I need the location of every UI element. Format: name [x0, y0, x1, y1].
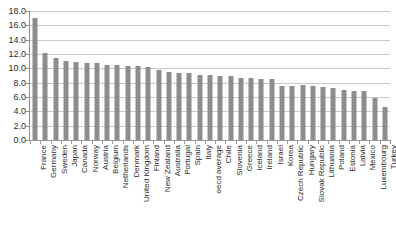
bar[interactable] — [33, 18, 38, 140]
x-axis-category-label: Greece — [244, 119, 252, 145]
x-axis-category-label: Italy — [203, 130, 211, 145]
y-axis-tick — [26, 126, 30, 127]
x-axis-category-label: Lithuania — [326, 113, 334, 145]
y-axis-tick — [26, 97, 30, 98]
y-axis-tick — [26, 68, 30, 69]
x-axis-category-label: Poland — [336, 120, 344, 145]
x-axis-category-label: Estonia — [347, 118, 355, 145]
y-axis-tick-label: 18.0 — [8, 7, 26, 16]
x-axis-category-label: Denmark — [131, 113, 139, 145]
x-axis-category-label: United Kingdom — [141, 88, 149, 145]
x-axis-category-labels: FranceGermanySwedenJapanCanadaNorwayAust… — [30, 145, 390, 239]
bar-slot — [195, 11, 205, 140]
x-axis-category-label: Austria — [100, 120, 108, 145]
y-axis-tick-label: 12.0 — [8, 50, 26, 59]
x-axis-category-label: Australia — [172, 114, 180, 145]
x-axis-category-label: Sweden — [59, 116, 67, 145]
y-axis-tick — [26, 11, 30, 12]
x-axis-category-label: Slovenia — [234, 114, 242, 145]
x-axis-category-label: Netherlands — [120, 102, 128, 145]
y-axis-tick — [26, 111, 30, 112]
y-axis-tick-label: 16.0 — [8, 21, 26, 30]
x-axis-category-label: New Zealand — [162, 98, 170, 145]
x-axis-category-label: Belgium — [110, 116, 118, 145]
x-axis-category-label: Czech Republic — [295, 89, 303, 145]
bar-chart-figure: 18.016.014.012.010.08.06.04.02.00.0 Fran… — [0, 0, 396, 239]
x-axis-category-label: Turkey — [388, 121, 396, 145]
y-axis-labels: 18.016.014.012.010.08.06.04.02.00.0 — [0, 0, 26, 239]
x-axis-category-label: France — [38, 120, 46, 145]
y-axis-tick-label: 0.0 — [13, 136, 26, 145]
x-axis-tick — [30, 140, 31, 144]
y-axis-tick-label: 14.0 — [8, 36, 26, 45]
y-axis-tick — [26, 140, 30, 141]
x-axis-category-label: Slovak Republic — [316, 88, 324, 145]
y-axis-tick — [26, 25, 30, 26]
x-axis-category-label: Mexico — [367, 120, 375, 145]
x-axis-category-label: Chile — [223, 127, 231, 145]
y-axis-tick-label: 8.0 — [13, 79, 26, 88]
y-axis-tick-label: 10.0 — [8, 64, 26, 73]
x-axis-category-label: Canada — [79, 117, 87, 145]
x-axis-category-label: Germany — [48, 112, 56, 145]
x-axis-category-label: Israel — [275, 125, 283, 145]
y-axis-tick — [26, 40, 30, 41]
bar-slot — [277, 11, 287, 140]
y-axis-tick-label: 4.0 — [13, 107, 26, 116]
x-axis-category-label: Latvia — [357, 124, 365, 145]
y-axis-tick — [26, 83, 30, 84]
y-axis-tick-label: 6.0 — [13, 93, 26, 102]
x-axis-category-label: Hungary — [306, 115, 314, 145]
x-axis-category-label: Korea — [285, 124, 293, 145]
x-axis-category-label: Spain — [192, 125, 200, 145]
x-axis-category-label: Japan — [69, 123, 77, 145]
x-axis-category-label: Norway — [90, 118, 98, 145]
x-axis-category-label: Finland — [151, 119, 159, 145]
x-axis-category-label: Luxembourg — [378, 101, 386, 145]
x-axis-category-label: Ireland — [264, 121, 272, 145]
y-axis-tick-label: 2.0 — [13, 122, 26, 131]
x-axis-category-label: oecd average — [213, 97, 221, 145]
y-axis-tick — [26, 54, 30, 55]
x-axis-category-label: Portugal — [182, 115, 190, 145]
x-axis-category-label: Iceland — [254, 119, 262, 145]
